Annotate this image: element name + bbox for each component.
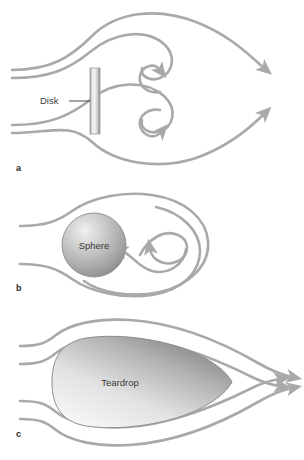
disk-label: Disk [40,95,59,106]
streamline-upper-outer [12,13,264,70]
panel-label-a: a [16,163,21,173]
teardrop-label: Teardrop [101,377,139,388]
sphere-label: Sphere [79,240,110,251]
teardrop-shape [52,336,232,427]
wake-loop-upper [140,233,187,263]
panel-b-sphere: Sphere [0,185,304,310]
figure-container: Disk a Sphere b [0,0,304,460]
panel-c-teardrop: Teardrop [0,315,304,460]
panel-a-streamlines [12,13,264,164]
panel-a-disk: Disk [0,0,304,180]
panel-label-b: b [16,283,22,293]
panel-label-c: c [16,429,21,439]
disk-shape [90,68,100,134]
